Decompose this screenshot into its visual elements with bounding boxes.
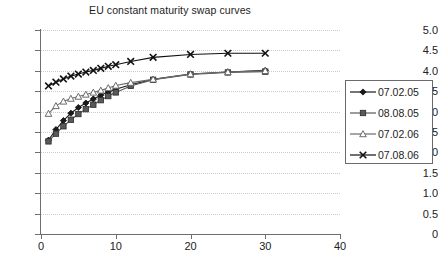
data-point-square bbox=[76, 111, 81, 116]
data-point-square bbox=[46, 139, 51, 144]
series-line bbox=[48, 70, 265, 140]
data-point-square bbox=[91, 102, 96, 107]
data-point-square bbox=[61, 124, 66, 129]
legend-item-label: 07.08.06 bbox=[378, 149, 419, 161]
legend-item-label: 07.02.06 bbox=[378, 128, 419, 140]
legend-item-07.08.06[interactable]: 07.08.06 bbox=[346, 144, 432, 165]
legend-item-08.08.05[interactable]: 08.08.05 bbox=[346, 102, 432, 123]
data-point-cross bbox=[98, 65, 105, 72]
data-point-cross bbox=[75, 71, 82, 78]
data-point-square bbox=[360, 110, 365, 115]
data-point-diamond bbox=[360, 88, 366, 94]
series-07.08.06 bbox=[45, 50, 268, 89]
data-point-cross bbox=[53, 79, 60, 86]
legend-item-label: 08.08.05 bbox=[378, 107, 419, 119]
data-point-square bbox=[113, 90, 118, 95]
legend-marker-square-icon bbox=[349, 106, 377, 120]
legend-marker-cross-icon bbox=[349, 148, 377, 162]
data-point-cross bbox=[45, 83, 52, 90]
legend-item-07.02.05[interactable]: 07.02.05 bbox=[346, 81, 432, 102]
data-point-square bbox=[53, 131, 58, 136]
chart-legend: 07.02.0508.08.0507.02.0607.08.06 bbox=[345, 80, 433, 164]
chart-container: EU constant maturity swap curves 00.51.0… bbox=[0, 0, 438, 266]
data-point-triangle-open bbox=[53, 103, 60, 109]
data-point-square bbox=[98, 97, 103, 102]
legend-item-07.02.06[interactable]: 07.02.06 bbox=[346, 123, 432, 144]
data-point-square bbox=[83, 106, 88, 111]
data-point-square bbox=[106, 93, 111, 98]
legend-marker-triangle-open-icon bbox=[349, 127, 377, 141]
data-point-cross bbox=[68, 73, 75, 80]
data-point-square bbox=[68, 117, 73, 122]
series-line bbox=[48, 53, 265, 86]
data-point-diamond bbox=[83, 100, 89, 106]
legend-item-label: 07.02.05 bbox=[378, 86, 419, 98]
legend-marker-diamond-icon bbox=[349, 85, 377, 99]
data-point-diamond bbox=[90, 96, 96, 102]
data-point-cross bbox=[60, 76, 67, 83]
